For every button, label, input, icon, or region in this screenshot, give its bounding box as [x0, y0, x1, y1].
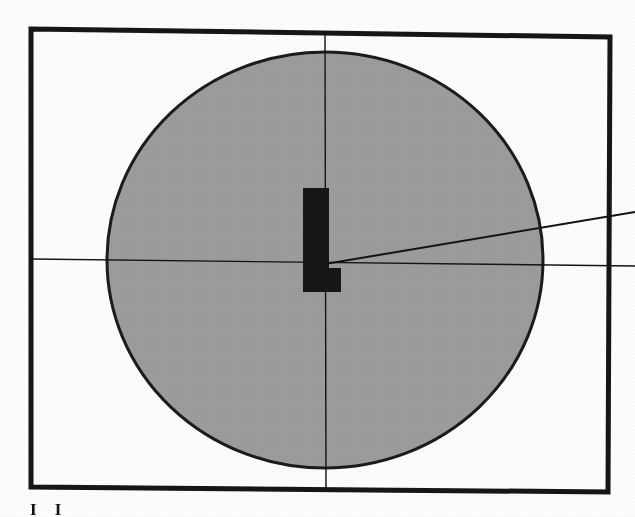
- scanned-figure: [0, 0, 635, 517]
- figure-page: I I: [0, 0, 635, 517]
- caption-strip: I I: [0, 503, 635, 517]
- caption-fragment: I I: [30, 503, 68, 517]
